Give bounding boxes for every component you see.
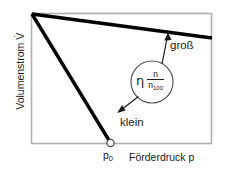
- pump-characteristic-diagram: Volumenstrom V̇ Förderdruck p groß klein…: [0, 0, 225, 171]
- klein-arrowhead-icon: [117, 105, 125, 113]
- curve-gross: [32, 14, 212, 38]
- fraction-numerator: n: [152, 70, 159, 79]
- y-axis-label: Volumenstrom V̇: [15, 11, 26, 131]
- eta-symbol: η: [136, 74, 144, 87]
- gross-curve-label: groß: [170, 40, 194, 52]
- p0-marker: [107, 139, 114, 146]
- fraction-denominator: n100: [147, 81, 164, 91]
- p0-label: p0: [103, 150, 113, 163]
- x-axis-label: Förderdruck p: [129, 152, 194, 163]
- curve-klein: [32, 14, 110, 142]
- eta-ratio-annotation: η n n100: [136, 70, 164, 91]
- speed-ratio-fraction: n n100: [147, 70, 164, 91]
- p0-subscript: 0: [109, 154, 113, 163]
- fraction-denominator-subscript: 100: [153, 84, 163, 90]
- klein-curve-label: klein: [120, 117, 144, 129]
- diagram-canvas: [0, 0, 225, 171]
